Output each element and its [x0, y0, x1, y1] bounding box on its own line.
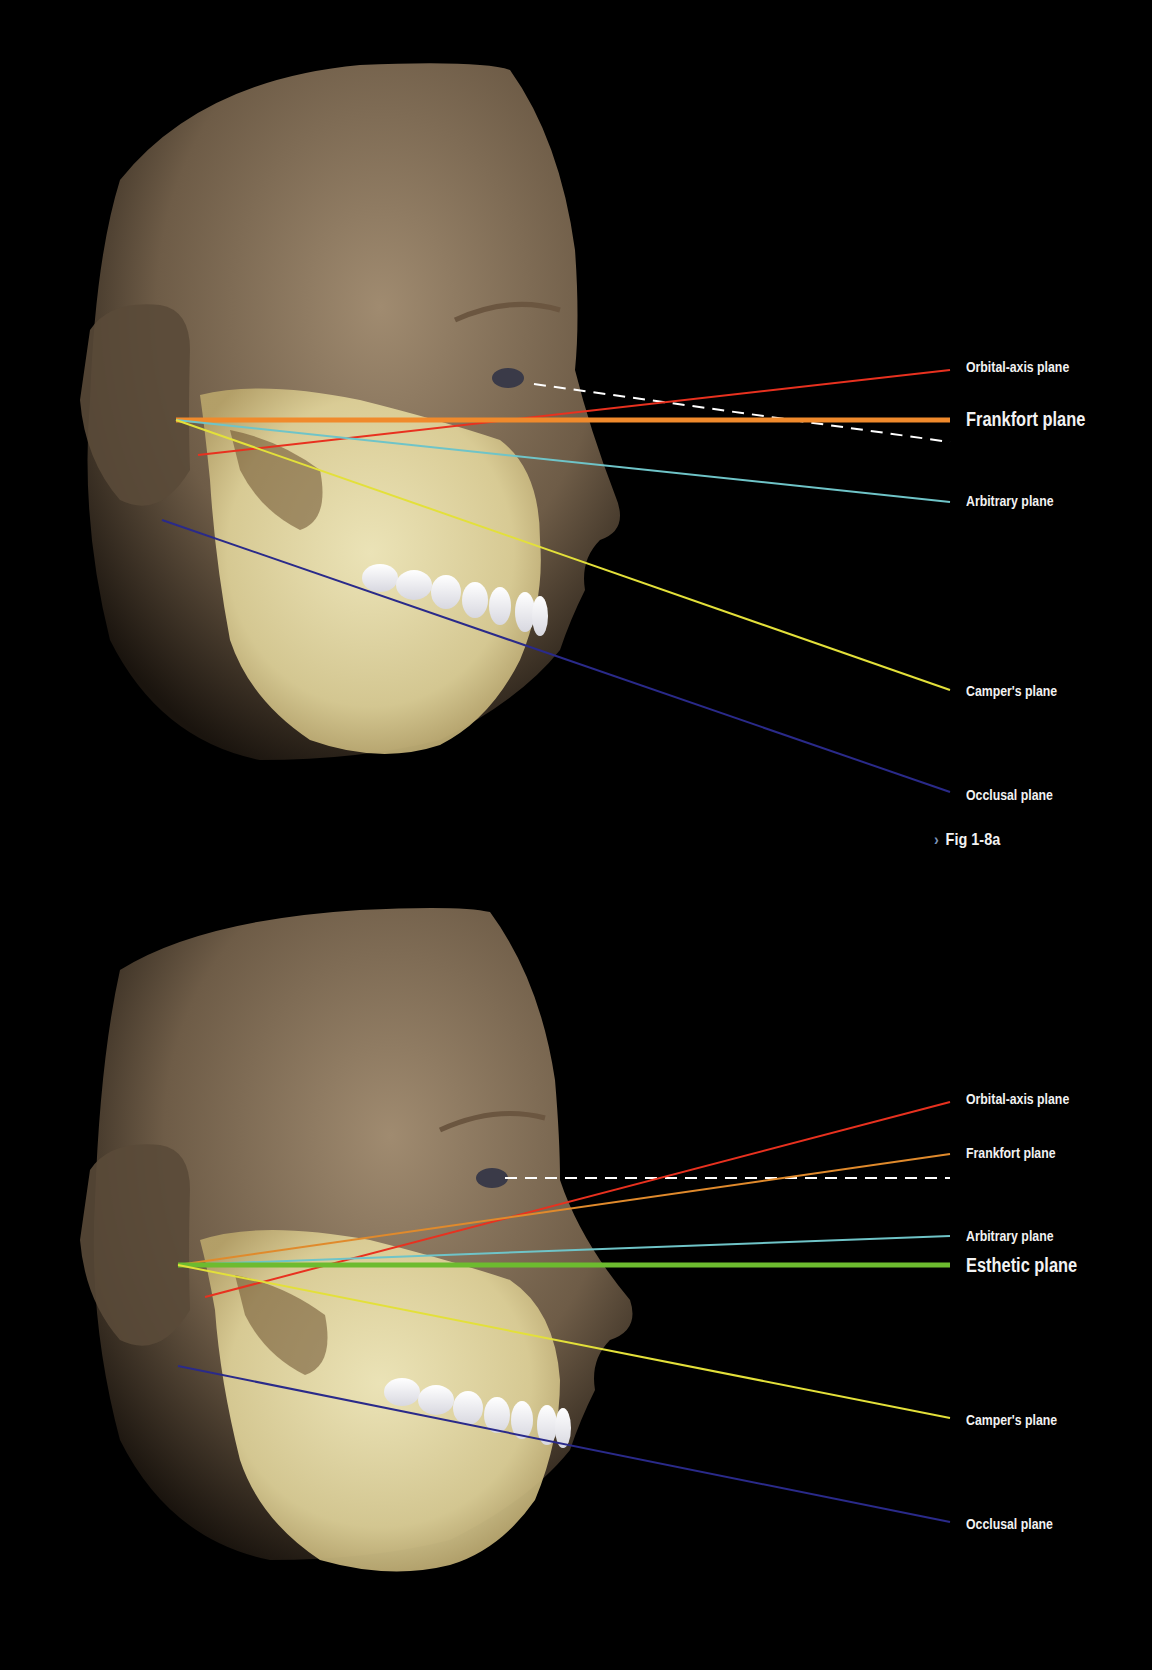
figure-caption-text: Fig 1-8a — [946, 830, 1001, 849]
label-arbitrary-plane-a: Arbitrary plane — [966, 492, 1053, 509]
label-arbitrary-plane-b: Arbitrary plane — [966, 1227, 1053, 1244]
label-orbital-axis-plane-b: Orbital-axis plane — [966, 1090, 1069, 1107]
label-campers-plane-b: Camper's plane — [966, 1411, 1057, 1428]
label-orbital-axis-plane-a: Orbital-axis plane — [966, 358, 1069, 375]
chevron-right-icon: › — [934, 830, 939, 849]
label-esthetic-plane-b: Esthetic plane — [966, 1254, 1077, 1277]
label-frankfort-plane-b: Frankfort plane — [966, 1144, 1056, 1161]
figure-caption: ›Fig 1-8a — [934, 830, 1000, 850]
label-occlusal-plane-b: Occlusal plane — [966, 1515, 1053, 1532]
head-illustration-a — [80, 63, 620, 760]
label-occlusal-plane-a: Occlusal plane — [966, 786, 1053, 803]
label-campers-plane-a: Camper's plane — [966, 682, 1057, 699]
label-frankfort-plane-a: Frankfort plane — [966, 408, 1085, 431]
